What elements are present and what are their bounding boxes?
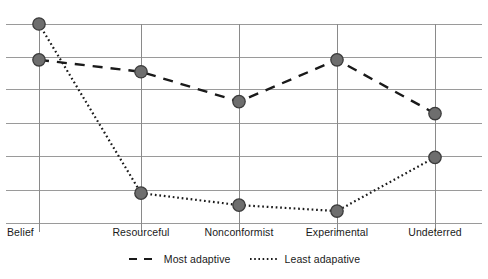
data-point-marker xyxy=(233,95,245,107)
legend-item-least-adaptive: Least adapative xyxy=(249,253,361,266)
line-chart: BeliefResourcefulNonconformistExperiment… xyxy=(0,0,488,279)
plot-area xyxy=(0,0,488,240)
series-line-2 xyxy=(39,24,435,211)
data-point-marker xyxy=(429,107,441,119)
gridlines xyxy=(6,24,482,223)
x-tick-label-resourceful: Resourceful xyxy=(112,226,169,239)
x-tick-label-undeterred: Undeterred xyxy=(408,226,462,239)
data-point-marker xyxy=(233,199,245,211)
dashed-line-swatch-icon xyxy=(128,254,158,264)
x-tick-label-experimental: Experimental xyxy=(306,226,368,239)
data-point-marker xyxy=(331,205,343,217)
x-tick-label-belief: Belief xyxy=(7,226,34,239)
legend-label-least-adaptive: Least adapative xyxy=(285,253,361,266)
plot-svg xyxy=(0,0,488,240)
data-point-marker xyxy=(135,187,147,199)
series-lines xyxy=(39,24,435,211)
data-point-marker xyxy=(331,54,343,66)
data-point-marker xyxy=(429,151,441,163)
data-point-marker xyxy=(135,66,147,78)
x-tick-label-nonconformist: Nonconformist xyxy=(205,226,274,239)
legend-label-most-adaptive: Most adaptive xyxy=(164,253,231,266)
dotted-line-swatch-icon xyxy=(249,254,279,264)
x-axis-tick-labels: BeliefResourcefulNonconformistExperiment… xyxy=(0,226,488,246)
chart-legend: Most adaptive Least adapative xyxy=(0,249,488,269)
data-point-marker xyxy=(33,54,45,66)
series-markers xyxy=(33,18,441,217)
legend-item-most-adaptive: Most adaptive xyxy=(128,253,231,266)
data-point-marker xyxy=(33,18,45,30)
